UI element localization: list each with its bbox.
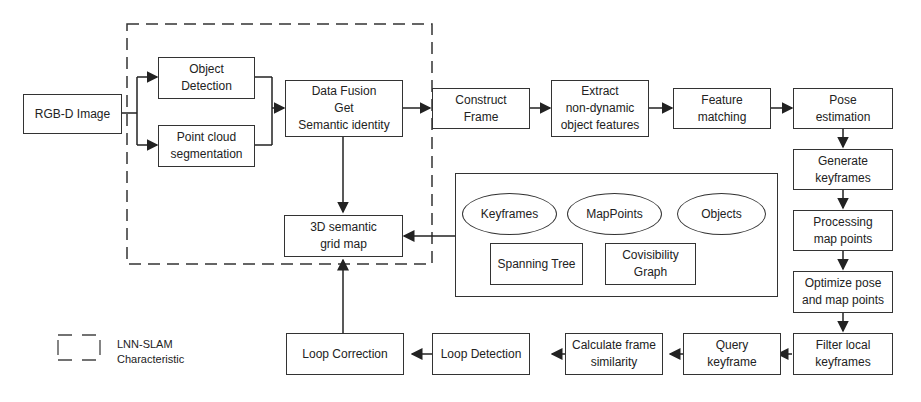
covisibility-graph-node: Covisibility Graph bbox=[605, 243, 696, 285]
keyframes-ellipse: Keyframes bbox=[462, 193, 557, 235]
calculate-similarity-node: Calculate frame similarity bbox=[565, 333, 663, 375]
loop-correction-node: Loop Correction bbox=[286, 333, 404, 375]
feature-matching-node: Feature matching bbox=[673, 88, 771, 129]
mappoints-ellipse: MapPoints bbox=[567, 193, 662, 235]
filter-local-keyframes-node: Filter local keyframes bbox=[793, 333, 893, 375]
pose-estimation-node: Pose estimation bbox=[793, 88, 893, 129]
legend-label: LNN-SLAM Characteristic bbox=[117, 337, 184, 367]
optimize-pose-node: Optimize pose and map points bbox=[793, 271, 893, 313]
construct-frame-node: Construct Frame bbox=[432, 88, 530, 129]
object-detection-node: Object Detection bbox=[158, 57, 255, 99]
processing-map-points-node: Processing map points bbox=[793, 210, 893, 251]
generate-keyframes-node: Generate keyframes bbox=[793, 149, 893, 190]
loop-detection-node: Loop Detection bbox=[432, 333, 530, 375]
rgbd-image-node: RGB-D Image bbox=[23, 94, 122, 134]
objects-ellipse: Objects bbox=[677, 193, 766, 235]
data-fusion-node: Data Fusion Get Semantic identity bbox=[285, 80, 403, 137]
extract-features-node: Extract non-dynamic object features bbox=[551, 80, 649, 137]
semantic-grid-map-node: 3D semantic grid map bbox=[284, 215, 403, 257]
point-cloud-segmentation-node: Point cloud segmentation bbox=[158, 125, 255, 167]
query-keyframe-node: Query keyframe bbox=[683, 333, 781, 375]
spanning-tree-node: Spanning Tree bbox=[490, 243, 583, 285]
